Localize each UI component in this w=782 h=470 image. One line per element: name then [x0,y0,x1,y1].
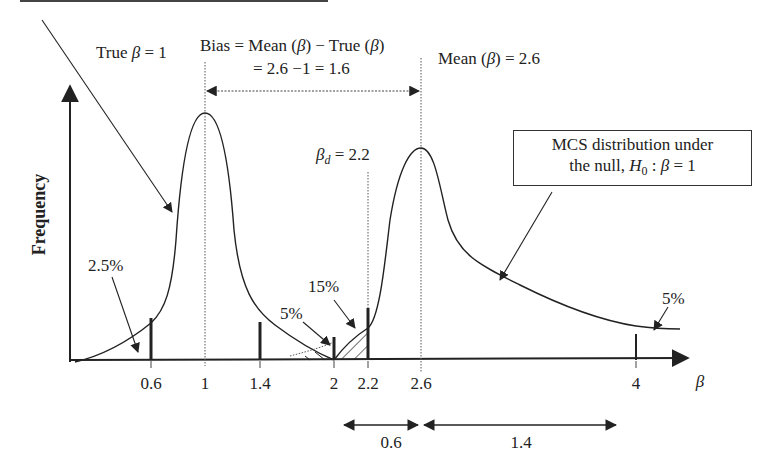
tick-label-2.2: 2.2 [357,375,378,392]
x-axis-ticks [151,361,636,368]
tick-label-2.6: 2.6 [410,375,431,392]
mcs-distribution-box: MCS distribution under the null, H0 : β … [513,130,752,186]
mcs-box-line1: MCS distribution under [514,134,751,155]
pct-5-right-label: 5% [662,290,685,307]
mean-beta-label: Mean (β) = 2.6 [438,50,540,67]
tick-label-1.4: 1.4 [249,375,270,392]
pct-5-left-pointer [303,322,330,345]
pct-15-label: 15% [308,278,339,295]
diagram-canvas [0,0,782,470]
span-right-label: 1.4 [510,434,531,451]
y-axis-label: Frequency [29,170,50,260]
shaded-rejection-region [334,320,368,360]
mcs-box-pointer [500,192,552,280]
beta-d-label: βd = 2.2 [316,146,370,166]
x-axis [70,358,688,360]
pct-15-pointer [334,300,355,328]
bias-label-line1: Bias = Mean (β) − True (β) [200,37,384,54]
tick-label-0.6: 0.6 [140,375,161,392]
pct-2.5-label: 2.5% [88,257,123,274]
mcs-box-line2: the null, H0 : β = 1 [514,155,751,182]
tick-label-4: 4 [632,375,641,392]
pct-5-left-label: 5% [280,305,303,322]
pct-5-right-pointer [654,307,668,330]
tick-label-2: 2 [330,375,339,392]
x-axis-label: β [696,373,704,390]
span-left-label: 0.6 [380,434,401,451]
true-beta-label: True β = 1 [96,44,167,61]
bias-label-line2: = 2.6 −1 = 1.6 [253,60,350,77]
tick-label-1: 1 [201,375,210,392]
